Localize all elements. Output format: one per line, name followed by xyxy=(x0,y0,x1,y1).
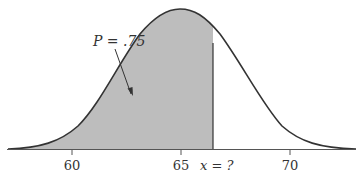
unknown-x-label: x = ? xyxy=(200,158,234,173)
tick-label-65: 65 xyxy=(173,158,190,173)
normal-curve-diagram: 60 65 70 x = ? P = .75 xyxy=(0,0,364,182)
shaded-area xyxy=(8,9,356,149)
tick-label-70: 70 xyxy=(282,158,299,173)
tick-label-60: 60 xyxy=(64,158,81,173)
probability-label: P = .75 xyxy=(92,33,145,49)
normal-distribution-figure: 60 65 70 x = ? P = .75 xyxy=(0,0,364,182)
